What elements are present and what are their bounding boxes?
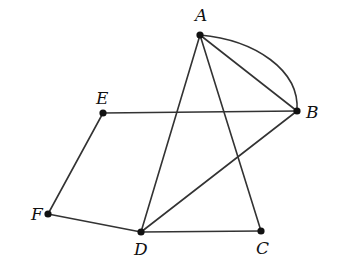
label-D: D xyxy=(133,239,148,259)
point-B xyxy=(293,107,300,114)
point-E xyxy=(99,109,106,116)
label-B: B xyxy=(305,102,319,122)
point-C xyxy=(257,227,264,234)
segment-AD xyxy=(141,35,200,232)
segment-AC xyxy=(200,35,261,231)
segment-FD xyxy=(48,214,141,232)
segments xyxy=(48,35,297,232)
geometry-diagram: A B C D E F xyxy=(0,0,339,268)
point-D xyxy=(137,228,144,235)
label-F: F xyxy=(30,204,44,224)
segment-EB xyxy=(103,111,297,113)
label-A: A xyxy=(193,5,207,25)
point-F xyxy=(44,210,51,217)
label-E: E xyxy=(95,88,109,108)
segment-DC xyxy=(141,231,261,232)
segment-DB xyxy=(141,111,297,232)
labels: A B C D E F xyxy=(30,5,319,259)
segment-EF xyxy=(48,113,103,214)
label-C: C xyxy=(256,238,269,258)
points xyxy=(44,31,300,235)
point-A xyxy=(196,31,203,38)
